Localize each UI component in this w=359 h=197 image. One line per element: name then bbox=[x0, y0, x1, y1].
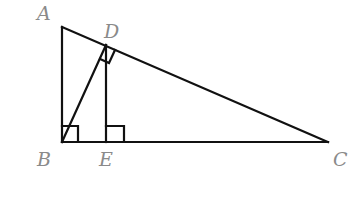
geometry-figure bbox=[0, 0, 359, 197]
label-d: D bbox=[104, 22, 119, 41]
right-angle-mark-b bbox=[62, 126, 78, 142]
label-c: C bbox=[333, 150, 348, 169]
label-b: B bbox=[37, 150, 51, 169]
segment-ac bbox=[62, 27, 328, 142]
right-angle-mark-e bbox=[106, 126, 124, 142]
label-e: E bbox=[99, 150, 113, 169]
label-a: A bbox=[37, 4, 51, 23]
